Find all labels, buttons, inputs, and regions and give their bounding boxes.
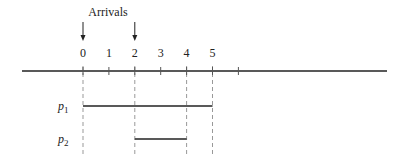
tick-label-3: 3	[158, 46, 164, 60]
arrival-arrow-icon	[132, 35, 137, 41]
timeline-diagram: Arrivals012345p1p2	[0, 0, 405, 164]
arrivals-label: Arrivals	[88, 5, 128, 19]
tick-label-2: 2	[132, 46, 138, 60]
job-label-p1: p1	[57, 99, 69, 115]
arrival-arrow-icon	[81, 35, 86, 41]
job-label-p2: p2	[57, 132, 69, 148]
tick-label-5: 5	[210, 46, 216, 60]
tick-label-0: 0	[80, 46, 86, 60]
tick-label-4: 4	[184, 46, 190, 60]
tick-label-1: 1	[106, 46, 112, 60]
